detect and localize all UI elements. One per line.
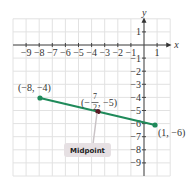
- midpoint-label-den: 2: [93, 103, 97, 112]
- endpoint-right: [152, 122, 157, 127]
- x-axis-label: x: [173, 39, 179, 50]
- y-tick-label: −4: [130, 92, 141, 103]
- y-tick-label: 1: [136, 26, 141, 37]
- point-label-left: (−8, −4): [18, 82, 51, 94]
- y-tick-label: −1: [130, 53, 141, 64]
- endpoint-left: [37, 95, 42, 100]
- y-tick-label: −3: [130, 79, 141, 90]
- midpoint-callout-label: Midpoint: [70, 147, 106, 155]
- point-label-right: (1, −6): [158, 127, 185, 139]
- x-tick-label: −5: [73, 47, 84, 58]
- y-tick-label: −5: [130, 105, 141, 116]
- y-tick-label: −7: [130, 131, 141, 142]
- x-tick-label: −6: [60, 47, 71, 58]
- midpoint-graph: xy−9−8−7−6−5−4−3−2−111−1−2−3−4−5−6−7−8−9…: [0, 0, 196, 184]
- x-tick-label: 1: [155, 47, 160, 58]
- callout-pointer: [93, 113, 97, 144]
- x-tick-label: −2: [112, 47, 123, 58]
- y-tick-label: −2: [130, 66, 141, 77]
- x-tick-label: −7: [47, 47, 58, 58]
- x-tick-label: −8: [34, 47, 45, 58]
- x-tick-label: −3: [99, 47, 110, 58]
- y-tick-label: −8: [130, 144, 141, 155]
- coordinate-plane: xy−9−8−7−6−5−4−3−2−111−1−2−3−4−5−6−7−8−9…: [0, 0, 196, 184]
- midpoint-label-rest: , −5): [98, 97, 117, 109]
- y-tick-label: −9: [130, 157, 141, 168]
- x-tick-label: −4: [86, 47, 97, 58]
- midpoint-label: (−: [81, 97, 90, 109]
- y-axis-label: y: [141, 7, 147, 18]
- midpoint-label-num: 7: [93, 92, 97, 101]
- x-tick-label: −9: [21, 47, 32, 58]
